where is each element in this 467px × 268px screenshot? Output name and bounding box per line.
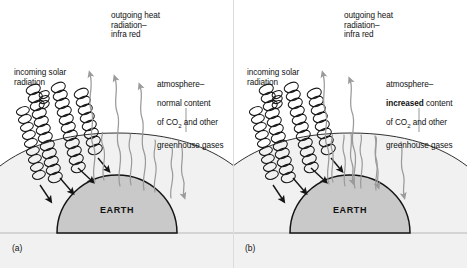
panel-divider [233, 0, 234, 268]
atmosphere-line3-post-b: and other [410, 118, 446, 127]
outgoing-heat-label-b: outgoing heat radiation– infra red [344, 11, 412, 40]
atmosphere-label-a: atmosphere– normal content of CO2 and ot… [157, 70, 237, 150]
atmosphere-emphasis-b: increased [386, 99, 424, 108]
outgoing-heat-label-a: outgoing heat radiation– infra red [111, 11, 179, 40]
incoming-solar-label-a: incoming solar radiation [14, 68, 92, 87]
panel-tag-a: (a) [12, 243, 22, 253]
earth-label-b: EARTH [333, 205, 367, 215]
atmosphere-line2-a: content [182, 99, 211, 108]
atmosphere-line1-a: atmosphere– [157, 80, 204, 89]
earth-label-a: EARTH [100, 205, 134, 215]
atmosphere-line1-b: atmosphere– [386, 80, 433, 89]
panel-tag-b: (b) [245, 243, 255, 253]
atmosphere-line3-pre-b: of CO [386, 118, 407, 127]
atmosphere-line3-post-a: and other [181, 118, 217, 127]
atmosphere-label-b: atmosphere– increased content of CO2 and… [386, 70, 467, 150]
incoming-solar-label-b: incoming solar radiation [247, 68, 325, 87]
atmosphere-line4-b: greenhouse gases [386, 141, 453, 150]
greenhouse-effect-figure: EARTH [0, 0, 467, 268]
atmosphere-line3-pre-a: of CO [157, 118, 178, 127]
atmosphere-emphasis-a: normal [157, 99, 182, 108]
atmosphere-line4-a: greenhouse gases [157, 141, 224, 150]
atmosphere-line2-b: content [424, 99, 453, 108]
